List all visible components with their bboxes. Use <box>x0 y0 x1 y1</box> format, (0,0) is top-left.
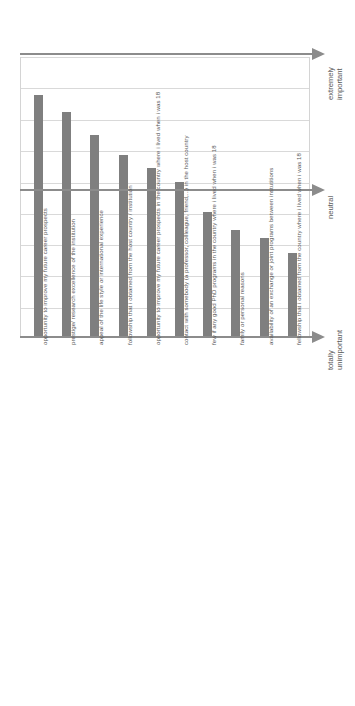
scale-label-totally-unimportant: totally unimportant <box>326 330 344 370</box>
category-label: followship that i obtained from the host… <box>126 185 133 345</box>
scale-label-line1: extremely <box>326 67 335 100</box>
category-label: family or personal reasons <box>238 272 245 345</box>
category-label: fellowship that i obtained from the coun… <box>295 153 302 345</box>
category-label: appeal of the life style or internationa… <box>97 210 104 345</box>
category-label: few if any good PhD programs in the coun… <box>210 145 217 345</box>
category-label: prestige/ research excellence of the ins… <box>69 219 76 345</box>
arrow-head-icon <box>312 184 325 196</box>
arrow-head-icon <box>312 331 325 343</box>
category-label: opportunity to improve my future career … <box>154 92 161 345</box>
scale-label-neutral: neutral <box>326 196 335 219</box>
category-label: opportunity to improve my future career … <box>41 208 48 345</box>
scale-label-line1: totally <box>326 350 335 370</box>
arrow-head-icon <box>312 48 325 60</box>
chart-figure: extremely important neutral totally unim… <box>0 0 355 706</box>
scale-label-extremely-important: extremely important <box>326 67 344 100</box>
scale-label-line2: important <box>335 67 344 100</box>
scale-label-line1: neutral <box>326 196 335 219</box>
gridline <box>21 57 309 58</box>
scale-label-line2: unimportant <box>335 330 344 370</box>
category-label: availability of an exchange or joint pro… <box>267 168 274 345</box>
category-label: contact with somebody (a professor, coll… <box>182 135 189 345</box>
arrow-shaft <box>20 53 312 55</box>
gridline <box>21 88 309 89</box>
